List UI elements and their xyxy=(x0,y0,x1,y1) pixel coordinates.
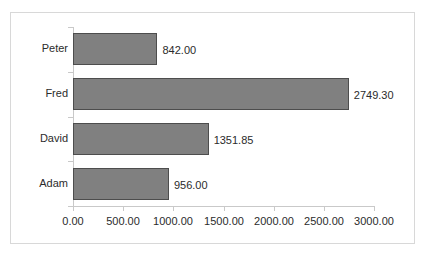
bar-value-label: 842.00 xyxy=(162,45,196,56)
category-tick xyxy=(68,161,74,162)
plot-area: PeterFredDavidAdam 842.002749.301351.859… xyxy=(0,0,423,257)
value-tick-label: 3000.00 xyxy=(344,216,404,227)
bar-adam[interactable] xyxy=(73,168,169,200)
bar-value-label: 956.00 xyxy=(174,179,208,190)
category-tick xyxy=(68,72,74,73)
bar-david[interactable] xyxy=(73,123,209,155)
bar-peter[interactable] xyxy=(73,33,157,65)
category-label-david: David xyxy=(8,133,68,144)
value-tick xyxy=(173,206,174,211)
value-tick xyxy=(224,206,225,211)
value-tick xyxy=(374,206,375,211)
category-tick xyxy=(68,117,74,118)
category-label-adam: Adam xyxy=(8,178,68,189)
bar-fred[interactable] xyxy=(73,78,349,110)
value-tick xyxy=(123,206,124,211)
category-label-fred: Fred xyxy=(8,88,68,99)
value-tick xyxy=(274,206,275,211)
bar-value-label: 2749.30 xyxy=(354,90,394,101)
category-label-peter: Peter xyxy=(8,43,68,54)
value-tick xyxy=(324,206,325,211)
bar-value-label: 1351.85 xyxy=(214,134,254,145)
category-tick xyxy=(68,27,74,28)
bar-chart: PeterFredDavidAdam 842.002749.301351.859… xyxy=(0,0,423,257)
value-tick xyxy=(73,206,74,211)
